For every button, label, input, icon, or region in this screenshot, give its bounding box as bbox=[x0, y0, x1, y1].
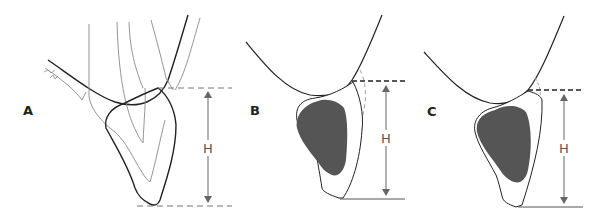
panel-c: C H bbox=[424, 16, 584, 207]
figure-canvas: A H B bbox=[0, 0, 599, 222]
scribble-annotation bbox=[44, 70, 58, 79]
root-line-1 bbox=[89, 24, 165, 182]
height-label-b: H bbox=[381, 131, 391, 146]
gingival-curve bbox=[246, 15, 382, 96]
panel-label-c: C bbox=[427, 104, 437, 119]
panel-b: B H bbox=[246, 15, 405, 199]
height-label-c: H bbox=[559, 141, 569, 156]
crown-outline bbox=[106, 88, 176, 205]
panel-a: A H bbox=[23, 15, 232, 206]
height-label-a: H bbox=[203, 141, 213, 156]
dark-mass bbox=[297, 100, 348, 176]
gingival-curve-dark bbox=[48, 15, 188, 105]
gingival-curve bbox=[424, 16, 564, 104]
panel-label-b: B bbox=[250, 103, 260, 118]
panel-label-a: A bbox=[23, 103, 33, 118]
root-line-3 bbox=[129, 22, 143, 88]
root-line-4 bbox=[151, 20, 173, 90]
dark-mass bbox=[477, 106, 531, 182]
